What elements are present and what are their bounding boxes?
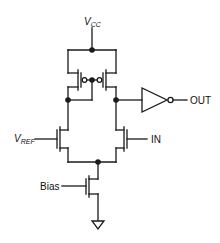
bias-label: Bias — [40, 181, 59, 192]
junction-dots — [65, 47, 119, 165]
nmos-m3 — [35, 100, 116, 162]
in-label: IN — [151, 134, 161, 145]
pmos-m1 — [68, 70, 87, 100]
out-label: OUT — [190, 95, 211, 106]
circuit-diagram: VCC VREF IN OUT Bias — [0, 0, 220, 243]
inverter — [142, 88, 187, 112]
vref-label: VREF — [14, 133, 35, 145]
pmos-m2 — [97, 70, 116, 100]
ground-symbol — [92, 221, 104, 229]
vcc-label: VCC — [84, 16, 102, 28]
nmos-m5-tail — [62, 162, 98, 220]
mirror-gate-tie — [68, 80, 97, 100]
